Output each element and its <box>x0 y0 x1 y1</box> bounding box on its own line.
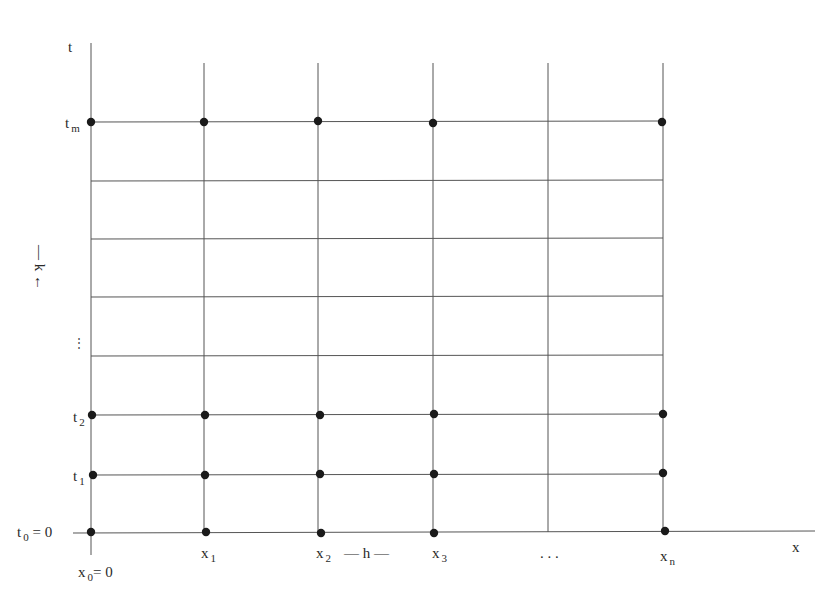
grid-line-t2 <box>91 414 663 415</box>
horizontal-grid-lines <box>73 121 815 533</box>
grid-line-tm <box>91 121 663 122</box>
label-x2: x2 <box>316 546 331 564</box>
horizontal-ellipsis: . . . <box>540 546 559 561</box>
vertical-grid-lines <box>91 43 663 555</box>
label-x3: x3 <box>432 546 447 564</box>
label-tm: tm <box>65 116 80 134</box>
x-axis <box>73 531 815 533</box>
grid-line-t1 <box>91 474 663 475</box>
label-xn: xn <box>660 549 675 567</box>
vertical-ellipsis: ⋮ <box>73 340 79 346</box>
h-spacing-label: — h — <box>344 546 389 561</box>
k-spacing-label: — k ← <box>31 245 48 290</box>
label-x0: x0= 0 <box>78 565 113 583</box>
x-axis-label: x <box>792 540 800 555</box>
label-t2: t2 <box>73 410 85 428</box>
label-t1: t1 <box>73 469 85 487</box>
grid-diagram <box>0 0 839 594</box>
t-axis-label: t <box>68 40 72 55</box>
label-x1: x1 <box>201 546 216 564</box>
label-t0: t0 = 0 <box>17 525 52 543</box>
